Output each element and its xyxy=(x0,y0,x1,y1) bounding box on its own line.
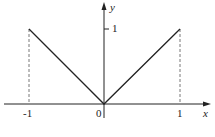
tick-label-neg1: -1 xyxy=(23,107,32,119)
chart: y 1 -1 0 1 x xyxy=(0,0,215,137)
y-axis-label: y xyxy=(109,1,115,13)
origin-label: 0 xyxy=(96,107,102,119)
y-axis-arrow-icon xyxy=(102,2,107,10)
tick-label-pos1: 1 xyxy=(177,107,183,119)
x-axis-arrow-icon xyxy=(203,102,211,107)
tick-label-y1: 1 xyxy=(112,22,118,34)
x-axis-label: x xyxy=(202,107,208,119)
